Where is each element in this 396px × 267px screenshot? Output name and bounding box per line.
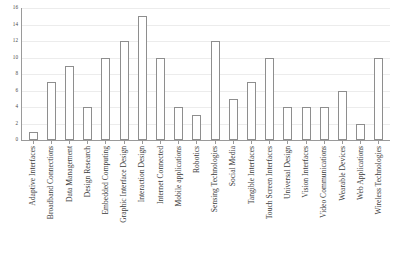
- bar-slot: [315, 8, 333, 140]
- x-tick-mark: [142, 140, 143, 144]
- y-tick-label: 10: [13, 55, 18, 60]
- bar[interactable]: [65, 66, 74, 140]
- x-tick-mark: [342, 140, 343, 144]
- x-tick-mark: [69, 140, 70, 144]
- x-tick-label: Data Management: [66, 146, 74, 202]
- tick-slot: [151, 140, 169, 144]
- bar-slot: [352, 8, 370, 140]
- bar-slot: [333, 8, 351, 140]
- x-tick-mark: [251, 140, 252, 144]
- y-axis-tick-labels: 0246810121416: [0, 8, 20, 140]
- bar-slot: [224, 8, 242, 140]
- bar[interactable]: [83, 107, 92, 140]
- tick-slot: [315, 140, 333, 144]
- x-tick-mark: [306, 140, 307, 144]
- x-tick-mark: [269, 140, 270, 144]
- x-tick-mark: [360, 140, 361, 144]
- x-tick-label: Web Applications: [357, 146, 365, 200]
- bar-slot: [370, 8, 388, 140]
- bar-slot: [261, 8, 279, 140]
- tick-slot: [242, 140, 260, 144]
- bar-slot: [115, 8, 133, 140]
- x-tick-mark: [178, 140, 179, 144]
- label-slot: Web Applications: [352, 146, 370, 264]
- tick-slot: [261, 140, 279, 144]
- tick-slot: [170, 140, 188, 144]
- bar[interactable]: [283, 107, 292, 140]
- tick-slot: [60, 140, 78, 144]
- bar-slot: [151, 8, 169, 140]
- label-slot: Internet Connected: [151, 146, 169, 264]
- tick-slot: [333, 140, 351, 144]
- tick-slot: [352, 140, 370, 144]
- x-axis-tick-labels: Adaptive InterfacesBroadband Connections…: [22, 146, 390, 264]
- bar[interactable]: [192, 115, 201, 140]
- bar-slot: [242, 8, 260, 140]
- label-slot: Mobile applications: [170, 146, 188, 264]
- x-tick-mark: [160, 140, 161, 144]
- bar[interactable]: [356, 124, 365, 141]
- bar-slot: [24, 8, 42, 140]
- label-slot: Wireless Technologies: [370, 146, 388, 264]
- label-slot: Robotics: [188, 146, 206, 264]
- x-tick-label: Mobile applications: [175, 146, 183, 207]
- y-tick-label: 6: [15, 88, 18, 93]
- x-tick-label: Adaptive Interfaces: [29, 146, 37, 206]
- label-slot: Universal Design: [279, 146, 297, 264]
- x-tick-label: Design Research: [84, 146, 92, 197]
- bar-slot: [279, 8, 297, 140]
- label-slot: Embedded Computing: [97, 146, 115, 264]
- label-slot: Video Communications: [315, 146, 333, 264]
- bar-slot: [133, 8, 151, 140]
- tick-slot: [79, 140, 97, 144]
- tick-slot: [224, 140, 242, 144]
- label-slot: Graphic Interface Design: [115, 146, 133, 264]
- tick-slot: [42, 140, 60, 144]
- bar[interactable]: [29, 132, 38, 140]
- bar[interactable]: [47, 82, 56, 140]
- x-tick-label: Sensing Technologies: [211, 146, 219, 212]
- x-tick-mark: [233, 140, 234, 144]
- bar[interactable]: [156, 58, 165, 141]
- label-slot: Adaptive Interfaces: [24, 146, 42, 264]
- x-tick-mark: [287, 140, 288, 144]
- bar-slot: [60, 8, 78, 140]
- bar[interactable]: [265, 58, 274, 141]
- y-tick-label: 8: [15, 71, 18, 76]
- y-tick-label: 2: [15, 121, 18, 126]
- bar-slot: [79, 8, 97, 140]
- label-slot: Broadband Connections: [42, 146, 60, 264]
- x-tick-label: Interaction Design: [139, 146, 147, 202]
- tick-slot: [97, 140, 115, 144]
- bar[interactable]: [302, 107, 311, 140]
- bar-chart-figure: 0246810121416 Adaptive InterfacesBroadba…: [0, 0, 396, 267]
- tick-slot: [24, 140, 42, 144]
- bar[interactable]: [229, 99, 238, 140]
- x-tick-mark: [324, 140, 325, 144]
- y-tick-label: 16: [13, 5, 18, 10]
- tick-slot: [279, 140, 297, 144]
- tick-slot: [206, 140, 224, 144]
- label-slot: Wearable Devices: [333, 146, 351, 264]
- tick-slot: [297, 140, 315, 144]
- bar[interactable]: [247, 82, 256, 140]
- bar[interactable]: [211, 41, 220, 140]
- bar-slot: [42, 8, 60, 140]
- bar[interactable]: [120, 41, 129, 140]
- bar-slot: [206, 8, 224, 140]
- label-slot: Design Research: [79, 146, 97, 264]
- label-slot: Interaction Design: [133, 146, 151, 264]
- label-slot: Social Media: [224, 146, 242, 264]
- label-slot: Data Management: [60, 146, 78, 264]
- bar[interactable]: [374, 58, 383, 141]
- bar[interactable]: [320, 107, 329, 140]
- bar[interactable]: [101, 58, 110, 141]
- tick-slot: [115, 140, 133, 144]
- bar[interactable]: [174, 107, 183, 140]
- x-tick-label: Wireless Technologies: [375, 146, 383, 214]
- x-tick-mark: [215, 140, 216, 144]
- bar[interactable]: [138, 16, 147, 140]
- bar[interactable]: [338, 91, 347, 141]
- bar-slot: [170, 8, 188, 140]
- x-axis-tick-marks: [22, 140, 390, 144]
